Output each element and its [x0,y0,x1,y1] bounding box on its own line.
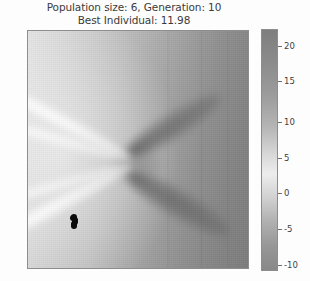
colorbar-tick-label: 15 [284,77,295,86]
title-line-best-individual: Best Individual: 11.98 [0,14,268,27]
colorbar-tick-mark [278,122,282,123]
colorbar: 20151050-5-10 [261,29,278,271]
population-marker-group [28,31,249,269]
colorbar-tick-label: 0 [284,189,289,198]
title-line-population-generation: Population size: 6, Generation: 10 [0,1,268,14]
heatmap-axes [27,30,249,269]
colorbar-tick-mark [278,193,282,194]
colorbar-tick-mark [278,229,282,230]
colorbar-tick-mark [278,265,282,266]
colorbar-tick-label: 20 [284,42,295,51]
colorbar-tick-label: 10 [284,118,295,127]
figure-canvas: Population size: 6, Generation: 10 Best … [0,0,310,281]
colorbar-tick-label: -10 [284,261,298,270]
colorbar-gradient [261,29,278,271]
colorbar-tick-mark [278,158,282,159]
colorbar-tick-label: -5 [284,225,292,234]
population-marker [71,221,77,227]
colorbar-tick-label: 5 [284,154,289,163]
figure-title: Population size: 6, Generation: 10 Best … [0,1,268,26]
population-marker [71,214,77,220]
colorbar-tick-mark [278,46,282,47]
colorbar-tick-mark [278,81,282,82]
